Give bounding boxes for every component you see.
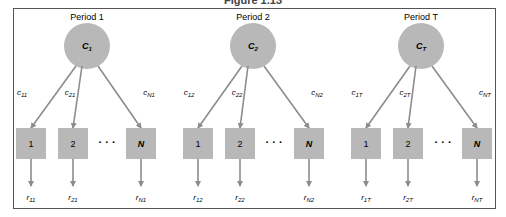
- allocation-label: cN2: [311, 88, 323, 98]
- return-label: r21: [68, 193, 77, 203]
- ellipsis: · · ·: [98, 136, 115, 148]
- period-group-1: Period 1C1c111r11c212r21cN1NrN1· · ·: [16, 12, 156, 203]
- allocation-arrow: [432, 66, 477, 128]
- asset-box-label: 2: [405, 139, 410, 149]
- asset-box-label: 1: [195, 139, 200, 149]
- period-group-2: Period 2C2c121r12c222r22cN2NrN2· · ·: [183, 12, 324, 203]
- period-group-3: Period TCTc1T1r1Tc2T2r2TcNTNrNT· · ·: [351, 12, 492, 203]
- diagram-canvas: Period 1C1c111r11c212r21cN1NrN1· · ·Peri…: [0, 0, 506, 217]
- allocation-label: cN1: [143, 88, 155, 98]
- asset-box-label: 2: [237, 139, 242, 149]
- return-label: rN1: [136, 193, 146, 203]
- asset-box-label: 1: [363, 139, 368, 149]
- period-label: Period T: [404, 12, 438, 22]
- return-label: r22: [235, 193, 245, 203]
- return-label: r12: [193, 193, 203, 203]
- asset-box-label: N: [474, 139, 481, 149]
- allocation-label: cNT: [479, 88, 492, 98]
- ellipsis: · · ·: [265, 136, 282, 148]
- allocation-arrow: [264, 66, 309, 128]
- asset-box-label: N: [138, 139, 145, 149]
- ellipsis: · · ·: [434, 136, 451, 148]
- return-label: r2T: [403, 193, 414, 203]
- period-label: Period 1: [70, 12, 104, 22]
- allocation-label: c1T: [351, 88, 363, 98]
- asset-box-label: N: [306, 139, 313, 149]
- allocation-label: c22: [232, 88, 243, 98]
- allocation-arrow: [98, 66, 141, 128]
- asset-box-label: 2: [70, 139, 75, 149]
- return-label: rN2: [304, 193, 315, 203]
- return-label: r1T: [361, 193, 372, 203]
- allocation-label: c12: [184, 88, 195, 98]
- return-label: rNT: [472, 193, 484, 203]
- period-label: Period 2: [236, 12, 270, 22]
- allocation-label: c21: [65, 88, 76, 98]
- allocation-label: c2T: [399, 88, 411, 98]
- allocation-label: c11: [17, 88, 27, 98]
- return-label: r11: [27, 193, 36, 203]
- asset-box-label: 1: [28, 139, 33, 149]
